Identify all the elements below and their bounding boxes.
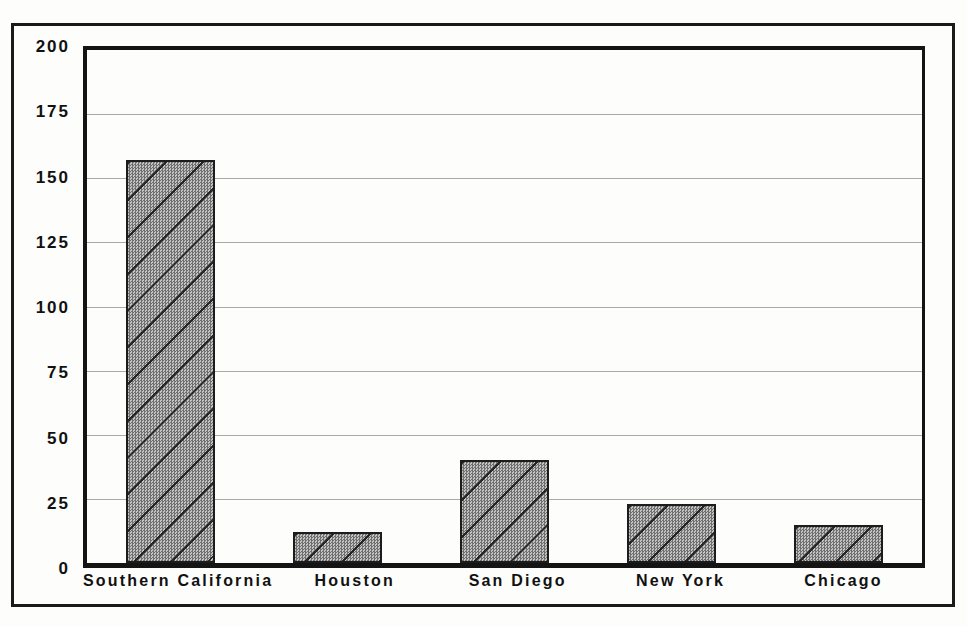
- bar: [460, 460, 549, 563]
- y-tick-label: 75: [18, 364, 70, 381]
- chart-page: 0255075100125150175200 Southern Californ…: [0, 0, 967, 627]
- x-tick-label: Houston: [273, 572, 436, 602]
- y-tick-label: 50: [18, 429, 70, 446]
- bar: [293, 532, 382, 563]
- x-tick-label: Chicago: [762, 572, 925, 602]
- y-tick-label: 100: [18, 299, 70, 316]
- x-tick-label: New York: [599, 572, 762, 602]
- y-tick-label: 0: [18, 560, 70, 577]
- y-tick-label: 25: [18, 494, 70, 511]
- y-tick-label: 200: [18, 38, 70, 55]
- bar: [794, 525, 883, 563]
- bar-series: [87, 50, 922, 563]
- y-tick-label: 150: [18, 168, 70, 185]
- y-axis-tick-labels: 0255075100125150175200: [18, 46, 70, 568]
- x-tick-label: Southern California: [83, 572, 273, 602]
- y-tick-label: 125: [18, 233, 70, 250]
- bar-slot: [588, 50, 755, 563]
- plot-inner: [87, 50, 922, 563]
- bar-slot: [254, 50, 421, 563]
- bar: [126, 160, 215, 563]
- y-tick-label: 175: [18, 103, 70, 120]
- bar-slot: [87, 50, 254, 563]
- bar-slot: [755, 50, 922, 563]
- bar-slot: [421, 50, 588, 563]
- x-axis-tick-labels: Southern CaliforniaHoustonSan DiegoNew Y…: [83, 572, 925, 602]
- bar: [627, 504, 716, 563]
- plot-area: [83, 46, 925, 568]
- x-tick-label: San Diego: [436, 572, 599, 602]
- bar-chart-figure: 0255075100125150175200 Southern Californ…: [0, 0, 967, 627]
